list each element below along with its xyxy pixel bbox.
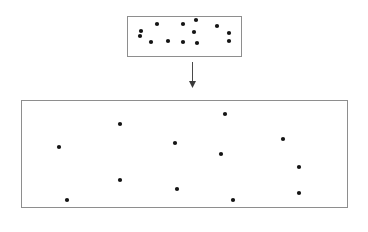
particle-2 bbox=[281, 137, 285, 141]
particle-8 bbox=[175, 187, 179, 191]
particle-9 bbox=[297, 191, 301, 195]
particle-1 bbox=[118, 122, 122, 126]
particle-3 bbox=[173, 141, 177, 145]
particle-4 bbox=[57, 145, 61, 149]
particle-0 bbox=[223, 112, 227, 116]
particle-8 bbox=[149, 40, 153, 44]
particle-5 bbox=[219, 152, 223, 156]
expansion-diagram bbox=[0, 0, 368, 232]
particle-2 bbox=[194, 18, 198, 22]
particle-10 bbox=[231, 198, 235, 202]
particle-11 bbox=[65, 198, 69, 202]
transition-arrow-head bbox=[189, 81, 196, 88]
particle-5 bbox=[192, 30, 196, 34]
particle-1 bbox=[181, 22, 185, 26]
particle-7 bbox=[138, 34, 142, 38]
particle-3 bbox=[139, 29, 143, 33]
particle-11 bbox=[195, 41, 199, 45]
diagram-canvas bbox=[0, 0, 368, 232]
particle-12 bbox=[227, 39, 231, 43]
particle-10 bbox=[181, 40, 185, 44]
particle-0 bbox=[155, 22, 159, 26]
particle-7 bbox=[118, 178, 122, 182]
particle-9 bbox=[166, 39, 170, 43]
particle-6 bbox=[297, 165, 301, 169]
particle-6 bbox=[227, 31, 231, 35]
source-container-box bbox=[128, 17, 242, 57]
particle-4 bbox=[215, 24, 219, 28]
